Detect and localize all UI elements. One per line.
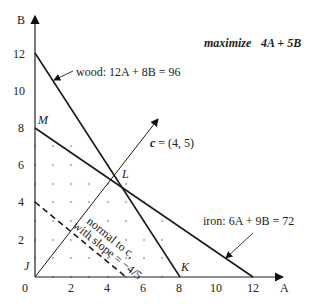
y-tick: 6 [18, 158, 24, 172]
vector-c-label: c = (4, 5) [150, 136, 194, 150]
y-tick: 8 [18, 121, 24, 135]
iron-leader-arrow [226, 233, 253, 258]
y-tick: 10 [13, 84, 25, 98]
iron-constraint-line [35, 128, 253, 277]
vertex-l-label: L [121, 167, 129, 181]
vertex-j-label: J [24, 259, 30, 273]
lp-diagram: 0 2 4 6 8 10 12 A 2 4 6 8 10 12 B maximi… [0, 0, 313, 307]
x-tick: 12 [247, 281, 259, 295]
normal-line-annotation: normal to c, with slope = −4/5 [70, 209, 152, 282]
wood-constraint-label: wood: 12A + 8B = 96 [76, 65, 181, 79]
y-tick: 2 [18, 233, 24, 247]
objective-prefix: maximize [204, 36, 252, 50]
x-tick: 10 [210, 281, 222, 295]
vertex-k-label: K [180, 260, 190, 274]
x-tick: 6 [140, 281, 146, 295]
x-tick: 4 [104, 281, 110, 295]
objective-function: 4A + 5B [260, 36, 301, 50]
feasible-region-dots [34, 145, 163, 278]
x-axis-label: A [280, 281, 289, 295]
vertex-m-label: M [37, 113, 49, 127]
origin-label: 0 [22, 281, 28, 295]
y-tick: 12 [13, 47, 25, 61]
wood-leader-arrow [54, 71, 73, 80]
y-axis-label: B [17, 13, 25, 27]
vector-c-value: = (4, 5) [155, 136, 194, 150]
iron-constraint-label: iron: 6A + 9B = 72 [203, 214, 294, 228]
x-tick: 2 [68, 281, 74, 295]
y-tick: 4 [18, 195, 24, 209]
x-tick: 8 [176, 281, 182, 295]
